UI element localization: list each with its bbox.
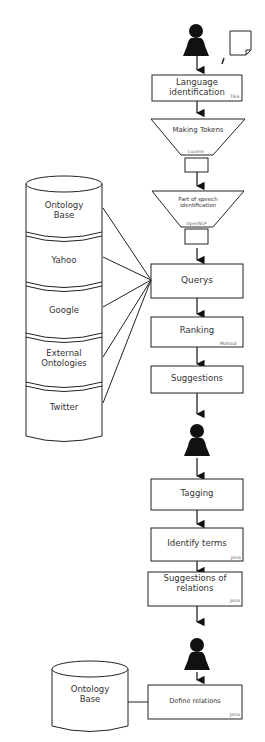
source-twitter: Twitter [26, 403, 102, 413]
tool-opennlp: OpenNLP [186, 221, 207, 226]
tool-jena: Jena [231, 555, 241, 560]
tool-tika: Tika [230, 94, 239, 99]
person-icon [184, 424, 210, 456]
source-yahoo: Yahoo [26, 256, 102, 266]
document-icon [222, 31, 251, 64]
label-line: Base [52, 695, 128, 705]
suggestions-of-relations-label: Suggestions of relations [148, 574, 242, 594]
querys-label: Querys [151, 275, 243, 285]
suggestions-label: Suggestions [151, 374, 243, 384]
tool-lucene: Lucene [188, 149, 204, 154]
language-identification-label: Language identification [152, 78, 242, 98]
label-line: Ontologies [26, 359, 102, 369]
source-connectors [103, 208, 151, 403]
identify-terms-label: Identify terms [151, 539, 243, 549]
label-line: Base [26, 211, 102, 221]
source-external-ontologies: External Ontologies [26, 349, 102, 369]
source-google: Google [26, 306, 102, 316]
ranking-label: Ranking [151, 326, 243, 336]
person-icon [184, 638, 210, 670]
label-line: identification [152, 88, 242, 98]
label-line: relations [148, 584, 242, 594]
tool-jena: Jena [230, 598, 240, 603]
making-tokens-label: Making Tokens [151, 126, 245, 134]
pos-identification-label: Part of speech identification [152, 196, 244, 209]
flow-diagram [0, 0, 265, 742]
source-ontology-base: Ontology Base [26, 201, 102, 221]
bottom-ontology-base-label: Ontology Base [52, 685, 128, 705]
person-icon [183, 24, 209, 56]
define-relations-label: Define relations [148, 698, 242, 705]
label-line: identification [152, 202, 244, 208]
tagging-label: Tagging [151, 489, 243, 499]
tool-jena: Jena [230, 712, 240, 717]
tool-mahout: Mahout [220, 341, 237, 346]
